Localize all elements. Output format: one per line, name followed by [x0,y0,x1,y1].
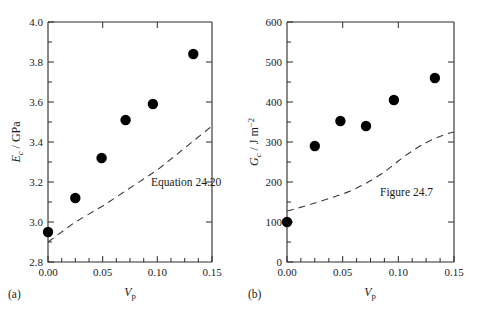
panel-b-plot: 0 100 200 300 400 500 600 0.00 0.05 0.10… [240,0,481,313]
panel-b-tag: (b) [248,288,262,301]
panel-b-x-top-ticks [343,22,399,28]
panel-a-y-axis-title: Ec / GPa [9,121,25,164]
panel-b-ytick-6: 600 [266,16,283,28]
panel-a-plot: 2.8 3.0 3.2 3.4 3.6 3.8 4.0 0.00 0.05 0.… [0,0,240,313]
panel-a-y-major-ticks [48,22,54,262]
panel-b-xtick-0: 0.00 [277,266,297,278]
data-point [389,95,399,105]
panel-a-ytick-6: 4.0 [29,16,43,28]
data-point [148,99,158,109]
svg-text:Ec / GPa: Ec / GPa [9,121,25,164]
panel-b-x-axis-title: Vp [364,285,376,301]
panel-b-ytick-5: 500 [266,56,283,68]
panel-a-y-right-ticks [206,62,212,222]
panel-b-y-axis-title: Gc / J m−2 [246,118,263,166]
panel-b-ytick-1: 100 [266,216,283,228]
data-point [430,73,440,83]
panel-b-ylabel-rest: / J m [247,127,261,154]
panel-a-xlabel-sub: p [132,291,136,301]
panel-a-x-top-ticks [103,22,158,28]
panel-b-ytick-2: 200 [266,176,283,188]
data-point [282,217,292,227]
panel-a-ytick-5: 3.8 [29,56,43,68]
panel-a-xtick-1: 0.05 [93,266,113,278]
data-point [120,115,130,125]
svg-text:Gc / J m−2: Gc / J m−2 [246,118,263,166]
panel-b-ytick-3: 300 [266,136,283,148]
panel-b-x-minor-ticks [301,258,440,262]
panel-b-ytick-4: 400 [266,96,283,108]
data-point [188,49,198,59]
panel-a-ytick-2: 3.2 [29,176,43,188]
panel-a-axis-frame [48,22,212,262]
panel-a-ytick-3: 3.4 [29,136,43,148]
panel-b-ylabel-main: G [247,157,261,166]
panel-b-xlabel-sub: p [372,291,376,301]
panel-a-x-axis-title: Vp [124,285,136,301]
panel-b-data-points [282,73,440,227]
panel-a-annotation: Equation 24.20 [151,176,222,189]
panel-b-xtick-1: 0.05 [333,266,353,278]
figure-container: 2.8 3.0 3.2 3.4 3.6 3.8 4.0 0.00 0.05 0.… [0,0,481,313]
panel-b-xtick-2: 0.10 [389,266,409,278]
panel-b-y-right-ticks [448,62,454,222]
panel-b-annotation: Figure 24.7 [380,186,433,199]
panel-a-xtick-3: 0.15 [202,266,222,278]
panel-a-ytick-4: 3.6 [29,96,43,108]
panel-b-xtick-3: 0.15 [444,266,464,278]
data-point [96,153,106,163]
data-point [70,193,80,203]
panel-b: 0 100 200 300 400 500 600 0.00 0.05 0.10… [240,0,480,313]
panel-a: 2.8 3.0 3.2 3.4 3.6 3.8 4.0 0.00 0.05 0.… [0,0,240,313]
data-point [335,116,345,126]
panel-a-data-points [43,49,199,237]
panel-b-ylabel-sup: −2 [246,118,256,127]
panel-a-xtick-0: 0.00 [38,266,58,278]
panel-a-ytick-1: 3.0 [29,216,43,228]
data-point [361,121,371,131]
data-point [310,141,320,151]
panel-a-tag: (a) [8,288,21,301]
panel-a-xtick-2: 0.10 [148,266,168,278]
panel-a-x-minor-ticks [62,258,199,262]
data-point [43,227,53,237]
panel-a-ylabel-rest: / GPa [9,121,23,152]
